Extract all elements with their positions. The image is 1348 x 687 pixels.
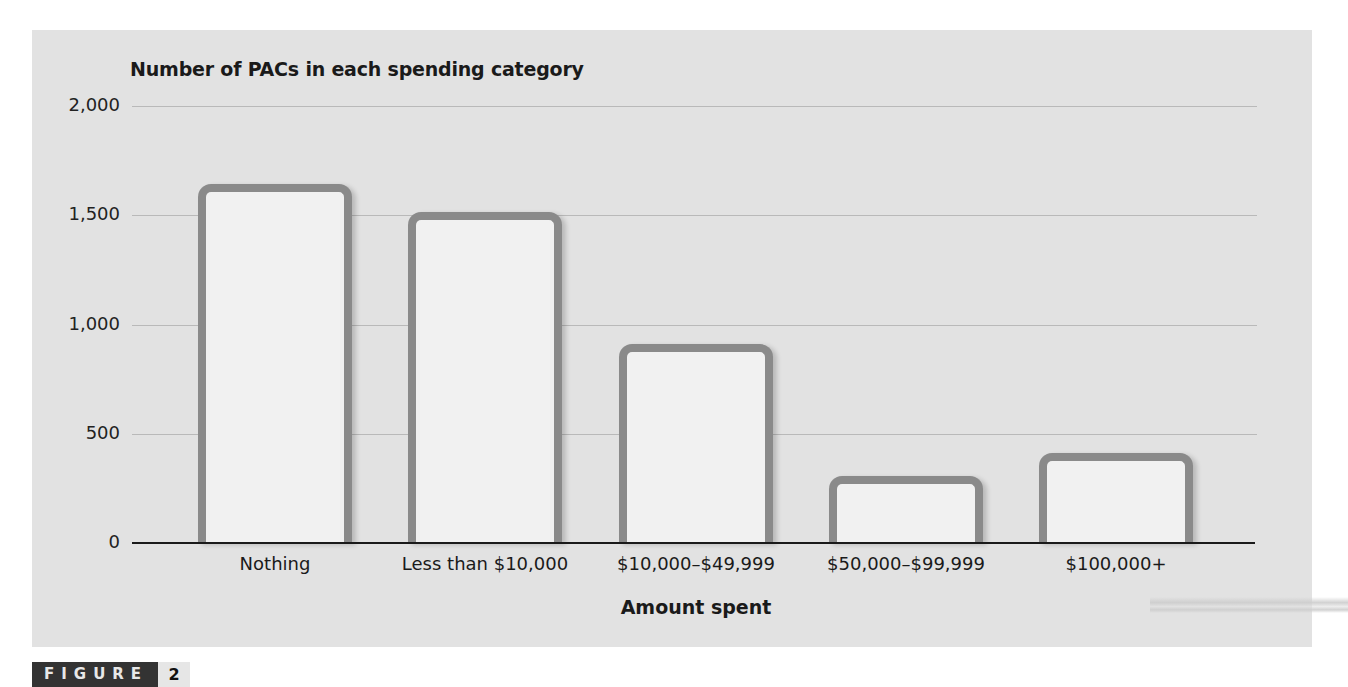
x-category-label: Less than $10,000 xyxy=(375,553,595,574)
gridline xyxy=(132,106,1257,107)
figure-number: 2 xyxy=(158,662,190,687)
bar xyxy=(408,212,562,543)
x-axis-line xyxy=(132,542,1255,544)
x-category-label: Nothing xyxy=(165,553,385,574)
figure-label: FIGURE 2 xyxy=(32,662,190,687)
y-tick-label: 0 xyxy=(40,532,120,552)
bar xyxy=(829,476,983,543)
scan-streak xyxy=(1150,597,1348,613)
y-tick-label: 1,500 xyxy=(40,204,120,224)
x-axis-title: Amount spent xyxy=(560,596,832,618)
x-category-label: $100,000+ xyxy=(1006,553,1226,574)
bar xyxy=(619,344,773,543)
bar xyxy=(1039,453,1193,543)
bar xyxy=(198,184,352,543)
x-category-label: $50,000–$99,999 xyxy=(796,553,1016,574)
y-tick-label: 500 xyxy=(40,423,120,443)
y-tick-label: 2,000 xyxy=(40,95,120,115)
figure-word: FIGURE xyxy=(32,662,158,687)
x-category-label: $10,000–$49,999 xyxy=(586,553,806,574)
y-tick-label: 1,000 xyxy=(40,314,120,334)
chart-title: Number of PACs in each spending category xyxy=(130,58,584,80)
